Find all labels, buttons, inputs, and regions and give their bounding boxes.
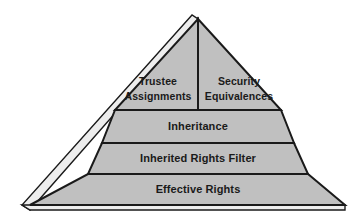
tier-1-right-label-line1: Security xyxy=(218,75,260,87)
pyramid-tiers-group xyxy=(30,19,345,205)
tier-1-left-label-line1: Trustee xyxy=(139,75,177,87)
pyramid-graphic: Trustee Assignments Security Equivalence… xyxy=(0,0,360,219)
tier-1-left-label-line2: Assignments xyxy=(124,90,191,102)
tier-3-label: Inherited Rights Filter xyxy=(140,152,257,164)
tier-4-label: Effective Rights xyxy=(156,183,241,195)
tier-1-right-label-line2: Equivalences xyxy=(205,90,273,102)
pyramid-diagram: Trustee Assignments Security Equivalence… xyxy=(0,0,360,219)
tier-2-label: Inheritance xyxy=(168,120,228,132)
